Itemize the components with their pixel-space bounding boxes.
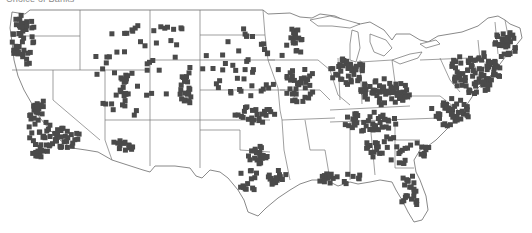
location-marker: [472, 91, 477, 96]
location-marker: [31, 40, 36, 45]
location-marker: [242, 76, 247, 81]
location-marker: [479, 58, 484, 63]
location-marker: [291, 38, 296, 43]
location-marker: [317, 179, 322, 184]
location-marker: [130, 27, 135, 32]
location-marker: [65, 129, 70, 134]
location-marker: [299, 37, 304, 42]
location-marker: [237, 87, 242, 92]
location-marker: [243, 67, 248, 72]
location-marker: [29, 19, 34, 24]
location-marker: [344, 80, 349, 85]
location-marker: [34, 104, 39, 109]
location-marker: [239, 171, 244, 176]
location-marker: [64, 139, 69, 144]
location-marker: [343, 122, 348, 127]
location-marker: [368, 114, 373, 119]
location-marker: [135, 84, 140, 89]
location-marker: [294, 99, 299, 104]
location-marker: [33, 142, 38, 147]
location-marker: [10, 40, 15, 45]
location-marker: [261, 87, 266, 92]
location-marker: [485, 83, 490, 88]
location-marker: [252, 187, 257, 192]
location-marker: [157, 68, 162, 73]
location-marker: [450, 115, 455, 120]
location-marker: [337, 62, 342, 67]
location-marker: [65, 145, 70, 150]
location-marker: [493, 63, 498, 68]
location-marker: [382, 117, 387, 122]
location-marker: [59, 144, 64, 149]
location-marker: [470, 74, 475, 79]
location-marker: [75, 137, 80, 142]
location-marker: [328, 66, 333, 71]
location-marker: [134, 108, 139, 113]
location-marker: [121, 85, 126, 90]
location-marker: [290, 68, 295, 73]
location-marker: [380, 151, 385, 156]
location-marker: [508, 51, 513, 56]
location-marker: [375, 141, 380, 146]
location-marker: [389, 96, 394, 101]
location-marker: [151, 28, 156, 33]
location-marker: [359, 89, 364, 94]
location-marker: [458, 78, 463, 83]
location-marker: [127, 143, 132, 148]
location-marker: [109, 101, 114, 106]
location-marker: [351, 174, 356, 179]
location-marker: [248, 93, 253, 98]
location-marker: [297, 80, 302, 85]
location-marker: [70, 144, 75, 149]
location-marker: [403, 83, 408, 88]
location-marker: [414, 200, 419, 205]
location-marker: [402, 183, 407, 188]
location-marker: [187, 70, 192, 75]
location-marker: [288, 86, 293, 91]
location-marker: [503, 37, 508, 42]
location-marker: [362, 85, 367, 90]
location-marker: [265, 107, 270, 112]
location-marker: [45, 149, 50, 154]
location-marker: [254, 171, 259, 176]
location-marker: [381, 113, 386, 118]
location-marker: [32, 116, 37, 121]
location-marker: [382, 76, 387, 81]
location-marker: [259, 112, 264, 117]
location-marker: [320, 174, 325, 179]
location-marker: [124, 31, 129, 36]
location-marker: [386, 91, 391, 96]
location-marker: [294, 92, 299, 97]
location-marker: [164, 91, 169, 96]
location-marker: [27, 113, 32, 118]
location-marker: [174, 42, 179, 47]
location-marker: [372, 110, 377, 115]
location-marker: [261, 153, 266, 158]
location-marker: [262, 47, 267, 52]
location-marker: [130, 71, 135, 76]
location-marker: [378, 120, 383, 125]
location-marker: [251, 67, 256, 72]
location-marker: [271, 82, 276, 87]
location-marker: [429, 106, 434, 111]
location-marker: [38, 142, 43, 147]
location-marker: [455, 83, 460, 88]
location-marker: [44, 129, 49, 134]
location-marker: [471, 68, 476, 73]
location-marker: [154, 41, 159, 46]
location-marker: [289, 27, 294, 32]
location-marker: [95, 72, 100, 77]
location-marker: [182, 98, 187, 103]
location-marker: [264, 82, 269, 87]
location-marker: [492, 42, 497, 47]
location-marker: [122, 49, 127, 54]
location-marker: [200, 66, 205, 71]
location-marker: [246, 154, 251, 159]
location-marker: [228, 89, 233, 94]
location-marker: [257, 161, 262, 166]
location-marker: [362, 95, 367, 100]
location-marker: [61, 126, 66, 131]
location-marker: [344, 59, 349, 64]
location-marker: [111, 107, 116, 112]
location-marker: [493, 72, 498, 77]
